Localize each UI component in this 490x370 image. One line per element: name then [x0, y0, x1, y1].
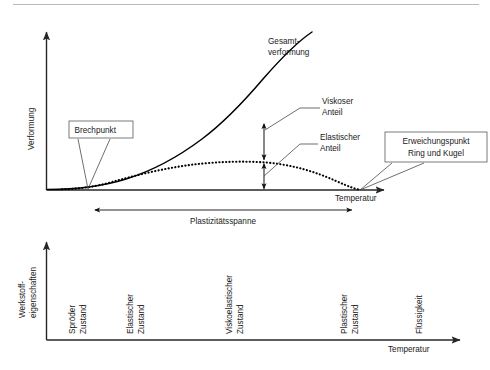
viskoser-anteil-leader — [265, 108, 320, 130]
erweichungspunkt-callout-line2: Ring und Kugel — [408, 149, 464, 158]
label-gesamtverformung-line2: verformung — [268, 48, 310, 57]
label-gesamtverformung-line1: Gesamt- — [268, 37, 300, 46]
label-viskoser-anteil-line1: Viskoser — [322, 97, 354, 106]
upper-y-axis-label: Verformung — [27, 107, 36, 150]
state-label-viskoelastischer-zustand: Viskoelastischer Zustand — [225, 275, 245, 334]
state-viskoelastischer-line2: Zustand — [236, 304, 245, 334]
state-label-sproeder-zustand: Spröder Zustand — [68, 304, 88, 334]
state-fluessigkeit-line1: Flüssigkeit — [415, 295, 424, 334]
plastizitaetsspanne-label: Plastizitätsspanne — [190, 217, 256, 226]
state-elastischer-line2: Zustand — [137, 304, 146, 334]
state-sproeder-line1: Spröder — [68, 305, 77, 334]
state-label-plastischer-zustand: Plastischer Zustand — [340, 294, 360, 334]
upper-chart: Verformung Temperatur Gesamt- verformung… — [27, 32, 487, 203]
erweichungspunkt-leader — [360, 163, 424, 190]
lower-chart: Werkstoff- eigenschaften Temperatur Sprö… — [18, 242, 460, 354]
state-plastischer-line1: Plastischer — [340, 294, 349, 334]
softening-behaviour-diagram: Verformung Temperatur Gesamt- verformung… — [0, 0, 490, 370]
state-label-fluessigkeit: Flüssigkeit — [415, 295, 424, 334]
brechpunkt-callout-label: Brechpunkt — [75, 126, 117, 135]
state-elastischer-line1: Elastischer — [126, 294, 135, 334]
label-elastischer-anteil-line2: Anteil — [320, 144, 341, 153]
upper-x-axis-label: Temperatur — [335, 194, 377, 203]
lower-x-axis-label: Temperatur — [388, 345, 430, 354]
state-sproeder-line2: Zustand — [79, 304, 88, 334]
state-plastischer-line2: Zustand — [351, 304, 360, 334]
brechpunkt-leader — [78, 139, 110, 189]
curve-elastischer-anteil — [62, 162, 360, 190]
label-viskoser-anteil-line2: Anteil — [322, 108, 343, 117]
state-label-elastischer-zustand: Elastischer Zustand — [126, 294, 146, 334]
lower-y-axis-label-line1: Werkstoff- — [18, 281, 27, 318]
erweichungspunkt-callout-line1: Erweichungspunkt — [403, 137, 471, 146]
state-viskoelastischer-line1: Viskoelastischer — [225, 275, 234, 334]
label-elastischer-anteil-line1: Elastischer — [320, 133, 360, 142]
lower-y-axis-label-line2: eigenschaften — [29, 267, 38, 318]
plasticity-range-annotation: Plastizitätsspanne — [95, 210, 352, 226]
